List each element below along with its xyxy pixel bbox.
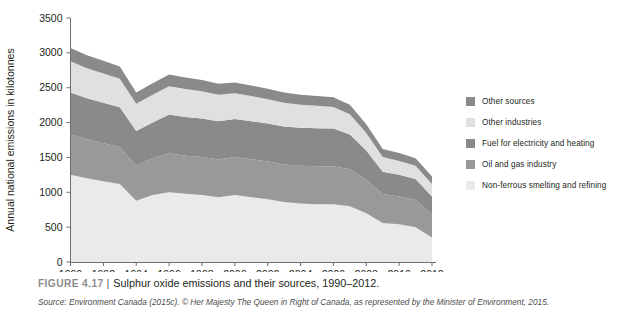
chart-legend: Other sources Other industries Fuel for … (466, 91, 635, 196)
legend-item-non-ferrous-smelting: Non-ferrous smelting and refining (466, 175, 635, 195)
x-tick-label: 1990 (59, 268, 83, 272)
y-tick-label: 500 (45, 221, 63, 233)
y-tick-label: 1500 (39, 151, 63, 163)
x-axis-ticks: 1990199219941996199820002002200420062008… (59, 262, 444, 272)
legend-item-oil-gas-industry: Oil and gas industry (466, 154, 635, 174)
figure-source: Source: Environment Canada (2015c). © He… (38, 297, 633, 307)
legend-item-other-sources: Other sources (466, 91, 635, 111)
y-tick-label: 3000 (39, 46, 63, 58)
y-axis-ticks: 0500100015002000250030003500 (39, 12, 70, 268)
legend-swatch-oil-gas-industry (466, 160, 475, 169)
x-tick-label: 2002 (256, 268, 280, 272)
legend-label-non-ferrous-smelting: Non-ferrous smelting and refining (482, 181, 606, 190)
x-tick-label: 2010 (387, 268, 411, 272)
y-tick-label: 2000 (39, 116, 63, 128)
caption-separator: | (107, 277, 110, 289)
y-tick-label: 1000 (39, 186, 63, 198)
y-tick-label: 3500 (39, 12, 63, 24)
legend-swatch-other-industries (466, 118, 475, 127)
x-tick-label: 1996 (157, 268, 181, 272)
legend-item-fuel-electricity-heating: Fuel for electricity and heating (466, 133, 635, 153)
x-tick-label: 2004 (289, 268, 313, 272)
x-tick-label: 2012 (420, 268, 444, 272)
legend-swatch-non-ferrous-smelting (466, 181, 475, 190)
x-tick-label: 1992 (92, 268, 116, 272)
figure-caption: FIGURE 4.17|Sulphur oxide emissions and … (38, 277, 628, 289)
chart-area: 0500100015002000250030003500 19901992199… (0, 0, 460, 272)
legend-swatch-fuel-electricity-heating (466, 139, 475, 148)
x-tick-label: 1998 (190, 268, 214, 272)
legend-label-fuel-electricity-heating: Fuel for electricity and heating (482, 139, 594, 148)
x-tick-label: 2000 (223, 268, 247, 272)
x-tick-label: 2008 (355, 268, 379, 272)
x-tick-label: 1994 (125, 268, 149, 272)
y-axis-title: Annual national emissions in kilotonnes (4, 48, 16, 231)
legend-label-oil-gas-industry: Oil and gas industry (482, 160, 556, 169)
area-bands-group (71, 48, 433, 262)
stacked-area-chart: 0500100015002000250030003500 19901992199… (0, 0, 460, 272)
y-tick-label: 0 (57, 256, 63, 268)
figure-number: FIGURE 4.17 (38, 278, 104, 289)
figure-container: 0500100015002000250030003500 19901992199… (0, 0, 635, 316)
legend-label-other-industries: Other industries (482, 118, 541, 127)
figure-title: Sulphur oxide emissions and their source… (113, 277, 379, 289)
legend-swatch-other-sources (466, 97, 475, 106)
x-tick-label: 2006 (322, 268, 346, 272)
legend-label-other-sources: Other sources (482, 97, 535, 106)
legend-item-other-industries: Other industries (466, 112, 635, 132)
y-tick-label: 2500 (39, 81, 63, 93)
